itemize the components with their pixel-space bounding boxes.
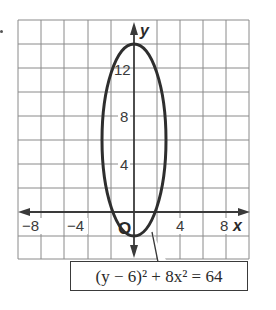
y-tick-label: 4 bbox=[120, 156, 128, 173]
x-tick-label: −4 bbox=[67, 217, 84, 234]
x-tick-label: 4 bbox=[176, 217, 184, 234]
equation-label: (y − 6)² + 8x² = 64 bbox=[70, 261, 248, 291]
y-axis-label: y bbox=[139, 22, 150, 39]
y-tick-label: 12 bbox=[114, 61, 131, 78]
x-tick-label: −8 bbox=[22, 217, 39, 234]
x-axis-label: x bbox=[232, 217, 243, 234]
x-tick-label: 8 bbox=[220, 217, 228, 234]
y-tick-label: 8 bbox=[120, 108, 128, 125]
origin-label: O bbox=[118, 219, 131, 238]
